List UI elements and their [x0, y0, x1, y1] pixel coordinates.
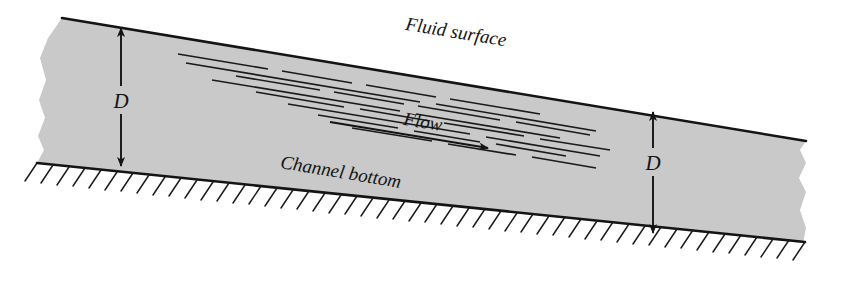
- open-channel-flow-figure: D D Fluid surface Flow Channel bottom: [0, 0, 853, 281]
- depth-right-label: D: [644, 151, 660, 175]
- fluid-surface-label: Fluid surface: [403, 13, 508, 51]
- diagram-canvas: D D Fluid surface Flow Channel bottom: [0, 0, 853, 281]
- fluid-surface-label-group: Fluid surface: [403, 13, 508, 51]
- depth-left-label: D: [112, 89, 128, 113]
